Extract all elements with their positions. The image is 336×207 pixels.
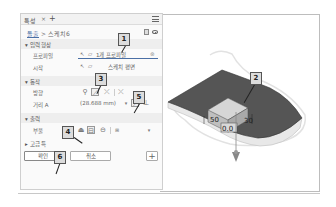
direction-asymmetric-icon[interactable]: ⤫: [117, 88, 125, 96]
profile-label: 프로파일: [33, 52, 53, 60]
document-icon[interactable]: [144, 29, 149, 35]
breadcrumb-current: 스케치6: [48, 30, 70, 37]
section-label: ▾ 출력: [25, 115, 40, 123]
boolean-join-icon[interactable]: ⏏: [77, 126, 85, 134]
section-label: ▾ 동작: [25, 78, 40, 86]
direction-symmetric-icon[interactable]: ⤫: [103, 88, 111, 96]
section-advanced[interactable]: ▸ 고급 특: [21, 138, 162, 148]
direction-flip-icon[interactable]: ⚲: [81, 88, 89, 96]
start-value: 스케치 평면: [108, 63, 135, 71]
distance-input[interactable]: (28.688 mm): [78, 99, 120, 108]
boolean-label: 부울: [33, 127, 43, 135]
add-tab-icon[interactable]: +: [49, 14, 56, 23]
cursor-icon: ↖: [80, 51, 85, 57]
callout-3: 3: [95, 73, 107, 86]
divider: [114, 89, 115, 96]
profile-selector[interactable]: ↖ ▱ 1개 프로파일 ⊗: [78, 50, 158, 59]
dimension-left[interactable]: 50: [210, 116, 219, 124]
screen: 50 30 0.0 특성 × + 돌출 > 스케치6 ▾ 입력 형상 프로파일 …: [0, 0, 336, 207]
boolean-cut-icon[interactable]: ⊟: [87, 126, 95, 134]
section-input-shape[interactable]: ▾ 입력 형상: [21, 39, 162, 49]
divider: [18, 193, 320, 194]
start-label: 시작: [33, 64, 43, 72]
cursor-icon: ↖: [80, 63, 85, 69]
eye-icon[interactable]: [152, 30, 158, 34]
section-label: ▸ 고급 특: [25, 140, 46, 148]
distance-label: 거리 A: [33, 101, 49, 109]
plane-icon: ▱: [88, 63, 92, 69]
callout-1: 1: [118, 33, 130, 46]
breadcrumb: 돌출 > 스케치6: [27, 29, 70, 38]
callout-6: 6: [54, 151, 66, 164]
boolean-new-solid-icon[interactable]: ⊞: [113, 126, 121, 134]
dimension-right[interactable]: 30: [244, 117, 253, 125]
add-button[interactable]: +: [146, 151, 158, 161]
tab-properties[interactable]: 특성: [24, 16, 36, 25]
hamburger-menu-icon[interactable]: [152, 16, 159, 22]
dropdown-arrow-icon[interactable]: ▾: [122, 99, 130, 107]
breadcrumb-separator: >: [41, 30, 46, 37]
start-selector[interactable]: ↖ ▱ 스케치 평면: [78, 62, 158, 71]
section-output[interactable]: ▾ 출력: [21, 113, 162, 123]
boolean-intersect-icon[interactable]: ⊖: [99, 126, 107, 134]
cancel-button[interactable]: 취소: [70, 151, 111, 161]
divider: [110, 127, 111, 134]
breadcrumb-link-extrude[interactable]: 돌출: [27, 30, 39, 37]
section-label: ▾ 입력 형상: [25, 41, 51, 49]
panel-tabbar: 특성 × +: [21, 14, 162, 25]
close-icon[interactable]: ×: [41, 15, 46, 22]
3d-model[interactable]: 50 30 0.0: [160, 40, 320, 165]
profile-icon: ▱: [88, 51, 92, 57]
dimension-depth[interactable]: 0.0: [222, 125, 233, 133]
callout-4: 4: [62, 126, 74, 139]
boolean-dropdown[interactable]: ▾: [145, 126, 153, 134]
direction-label: 방향: [33, 89, 43, 97]
callout-5: 5: [133, 91, 145, 104]
clear-icon[interactable]: ⊗: [150, 51, 155, 57]
section-behavior[interactable]: ▾ 동작: [21, 76, 162, 86]
callout-2: 2: [250, 72, 262, 85]
